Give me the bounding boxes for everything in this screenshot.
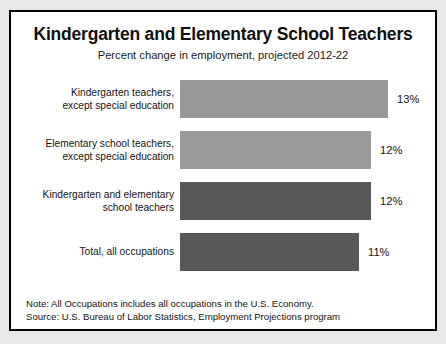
footnote-source: Source: U.S. Bureau of Labor Statistics,… <box>26 310 426 323</box>
chart-footnotes: Note: All Occupations includes all occup… <box>26 297 426 324</box>
bar-category-label: Elementary school teachers, except speci… <box>19 137 174 163</box>
bar-value-label: 12% <box>380 144 402 156</box>
bar-category-label: Total, all occupations <box>19 245 174 258</box>
bar-chart-plot-area: Kindergarten teachers, except special ed… <box>11 80 435 290</box>
bar-row: Elementary school teachers, except speci… <box>11 131 435 169</box>
bar-value-label: 13% <box>397 93 419 105</box>
bar-rect <box>180 182 371 220</box>
bar-rect <box>180 131 371 169</box>
chart-title: Kindergarten and Elementary School Teach… <box>11 25 435 44</box>
bar-category-label: Kindergarten teachers, except special ed… <box>19 86 174 112</box>
bar-category-label: Kindergarten and elementary school teach… <box>19 188 174 214</box>
bar-value-label: 12% <box>380 195 402 207</box>
bar-value-label: 11% <box>368 246 390 258</box>
bar-row: Kindergarten teachers, except special ed… <box>11 80 435 118</box>
bar-rect <box>180 80 388 118</box>
bar-rect <box>180 233 359 271</box>
bar-row: Kindergarten and elementary school teach… <box>11 182 435 220</box>
chart-subtitle: Percent change in employment, projected … <box>11 49 435 61</box>
footnote-note: Note: All Occupations includes all occup… <box>26 297 426 310</box>
chart-header: Kindergarten and Elementary School Teach… <box>11 12 435 62</box>
chart-card: Kindergarten and Elementary School Teach… <box>9 10 437 331</box>
bar-row: Total, all occupations 11% <box>11 233 435 271</box>
